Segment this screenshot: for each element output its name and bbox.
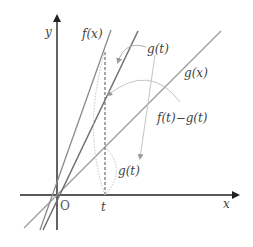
arrow-lower-gt — [140, 55, 155, 158]
g-x-label: g(x) — [184, 66, 208, 80]
f-x-label: f(x) — [81, 27, 103, 41]
function-diagram: y f(x) g(t) g(x) f(t)−g(t) g(t) O t x — [0, 0, 253, 247]
lower-g-t-label: g(t) — [118, 164, 140, 178]
dotted-bracket-g — [105, 147, 117, 195]
line-g — [24, 31, 221, 228]
x-axis-label: x — [223, 197, 230, 211]
upper-g-t-label: g(t) — [147, 42, 169, 56]
difference-label: f(t)−g(t) — [156, 111, 208, 125]
t-tick-label: t — [101, 200, 106, 214]
arrow-upper-gt — [118, 45, 146, 62]
origin-label: O — [60, 199, 70, 213]
y-axis-label: y — [44, 25, 52, 39]
